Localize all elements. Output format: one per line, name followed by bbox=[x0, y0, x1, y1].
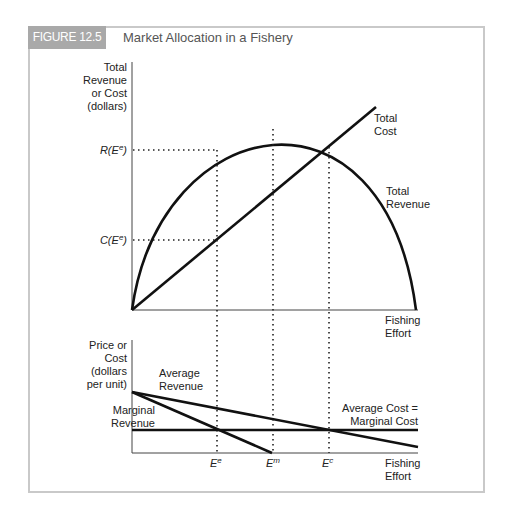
svg-text:Total: Total bbox=[104, 61, 127, 73]
svg-text:Cost: Cost bbox=[104, 352, 127, 364]
bottom-x-axis-label-2: Effort bbox=[385, 470, 411, 482]
svg-text:Revenue: Revenue bbox=[83, 74, 127, 86]
marginal-revenue-label: Marginal bbox=[113, 404, 155, 416]
tick-label-cost: C(Ee) bbox=[100, 233, 127, 246]
tick-e-competitive: Ec bbox=[322, 456, 333, 469]
tick-label-revenue: R(Ee) bbox=[100, 143, 127, 156]
svg-text:(dollars): (dollars) bbox=[87, 100, 127, 112]
top-y-axis-label: Total Revenue or Cost (dollars) bbox=[83, 61, 127, 112]
ac-mc-label-2: Marginal Cost bbox=[350, 415, 418, 427]
tick-e-max: Em bbox=[266, 456, 280, 469]
average-revenue-label: Average bbox=[159, 367, 200, 379]
total-revenue-label-2: Revenue bbox=[386, 198, 430, 210]
bottom-y-axis-label: Price or Cost (dollars per unit) bbox=[87, 339, 128, 390]
total-revenue-label: Total bbox=[386, 185, 409, 197]
ac-mc-label: Average Cost = bbox=[342, 402, 418, 414]
svg-text:per unit): per unit) bbox=[87, 378, 127, 390]
svg-text:Price or: Price or bbox=[89, 339, 127, 351]
top-x-axis-label: Fishing bbox=[385, 314, 420, 326]
marginal-revenue-label-2: Revenue bbox=[111, 417, 155, 429]
bottom-panel: Price or Cost (dollars per unit) Average… bbox=[87, 339, 421, 482]
svg-text:(dollars: (dollars bbox=[91, 365, 128, 377]
chart: Total Revenue or Cost (dollars) R(Ee) C(… bbox=[0, 0, 515, 519]
svg-text:or Cost: or Cost bbox=[92, 87, 127, 99]
top-x-axis-label-2: Effort bbox=[385, 327, 411, 339]
tick-e-efficient: Ee bbox=[210, 456, 222, 469]
total-cost-label-2: Cost bbox=[374, 125, 397, 137]
total-cost-label: Total bbox=[374, 112, 397, 124]
average-revenue-label-2: Revenue bbox=[159, 380, 203, 392]
total-cost-line bbox=[132, 107, 376, 310]
top-panel: Total Revenue or Cost (dollars) R(Ee) C(… bbox=[83, 61, 430, 339]
bottom-x-axis-label: Fishing bbox=[385, 457, 420, 469]
total-revenue-curve bbox=[132, 145, 416, 310]
